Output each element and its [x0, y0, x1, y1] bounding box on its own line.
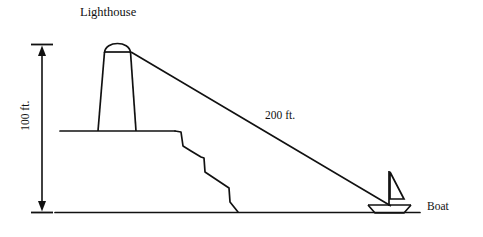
dimension-arrowhead-up [38, 46, 46, 57]
lighthouse-diagram: Lighthouse 100 ft. 200 ft. Boat [0, 0, 483, 237]
tower-right-wall [131, 52, 137, 131]
dimension-arrowhead-down [38, 201, 46, 212]
height-dimension-label: 100 ft. [20, 86, 32, 146]
line-of-sight [131, 52, 391, 206]
lighthouse-tower [98, 44, 136, 132]
tower-left-wall [98, 52, 105, 131]
terrain-profile [55, 131, 420, 213]
vertical-dimension-arrow [31, 45, 53, 213]
staircase [175, 131, 238, 212]
lighthouse-label: Lighthouse [80, 6, 136, 19]
hypotenuse-distance-label: 200 ft. [265, 110, 295, 122]
diagram-canvas [0, 0, 483, 237]
sailboat [368, 171, 411, 213]
boat-sail [390, 172, 404, 199]
boat-label: Boat [427, 201, 449, 213]
